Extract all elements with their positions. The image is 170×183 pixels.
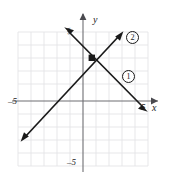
graph-canvas (0, 0, 170, 183)
x-axis-label: x (152, 103, 156, 113)
y-axis-arrow (80, 13, 87, 20)
line-two (21, 31, 124, 142)
x-tick-label-positive-5: 5 (141, 103, 146, 112)
line-two-number-label: 2 (126, 31, 139, 44)
coordinate-plane-figure: y x 5 –5 5 –5 1 2 (0, 0, 170, 183)
intersection-point (89, 55, 95, 61)
x-tick-label-negative-5: –5 (8, 97, 17, 106)
y-axis-label: y (93, 15, 97, 25)
y-tick-label-negative-5: –5 (67, 158, 76, 167)
line-one-number-label: 1 (122, 70, 135, 83)
